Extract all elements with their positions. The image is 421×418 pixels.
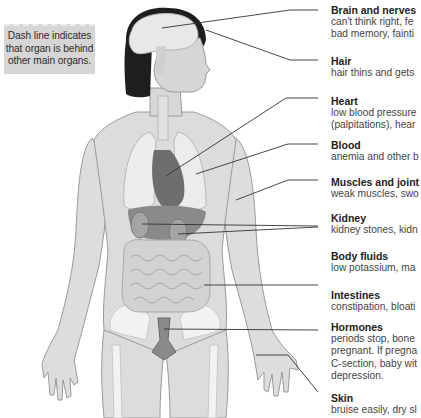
label-intestines: Intestines constipation, bloati — [331, 289, 421, 313]
intestines — [122, 239, 210, 312]
label-desc: hair thins and gets — [331, 67, 421, 79]
label-desc: (palpitations), hear — [331, 119, 421, 131]
label-desc: depression. — [331, 370, 421, 382]
label-desc: weak muscles, swo — [331, 188, 421, 200]
label-desc: can't think right, fe — [331, 16, 421, 28]
label-desc: C-section, baby wit — [331, 358, 421, 370]
trachea — [158, 96, 168, 140]
label-desc: bruise easily, dry sl — [331, 404, 421, 416]
label-muscles-and-joints: Muscles and joint weak muscles, swo — [331, 176, 421, 200]
label-heart: Heart low blood pressure (palpitations),… — [331, 95, 421, 132]
label-hormones: Hormones periods stop, bone pregnant. If… — [331, 321, 421, 382]
label-title: Intestines — [331, 289, 421, 301]
label-desc: low potassium, ma — [331, 262, 421, 274]
label-title: Body fluids — [331, 250, 421, 262]
label-title: Hormones — [331, 321, 421, 333]
kidney-left — [131, 212, 149, 238]
label-title: Brain and nerves — [331, 4, 421, 16]
label-hair: Hair hair thins and gets — [331, 55, 421, 79]
label-title: Blood — [331, 139, 421, 151]
label-title: Muscles and joint — [331, 176, 421, 188]
label-title: Skin — [331, 392, 421, 404]
label-desc: periods stop, bone — [331, 333, 421, 345]
label-brain-and-nerves: Brain and nerves can't think right, fe b… — [331, 4, 421, 41]
label-skin: Skin bruise easily, dry sl — [331, 392, 421, 416]
label-desc: anemia and other b — [331, 151, 421, 163]
label-title: Heart — [331, 95, 421, 107]
label-body-fluids: Body fluids low potassium, ma — [331, 250, 421, 274]
label-title: Hair — [331, 55, 421, 67]
label-desc: low blood pressure — [331, 107, 421, 119]
label-blood: Blood anemia and other b — [331, 139, 421, 163]
label-desc: pregnant. If pregna — [331, 345, 421, 357]
label-kidney: Kidney kidney stones, kidn — [331, 212, 421, 236]
leader-hair — [206, 30, 318, 60]
label-title: Kidney — [331, 212, 421, 224]
label-desc: kidney stones, kidn — [331, 224, 421, 236]
label-desc: constipation, bloati — [331, 301, 421, 313]
label-desc: bad memory, fainti — [331, 28, 421, 40]
